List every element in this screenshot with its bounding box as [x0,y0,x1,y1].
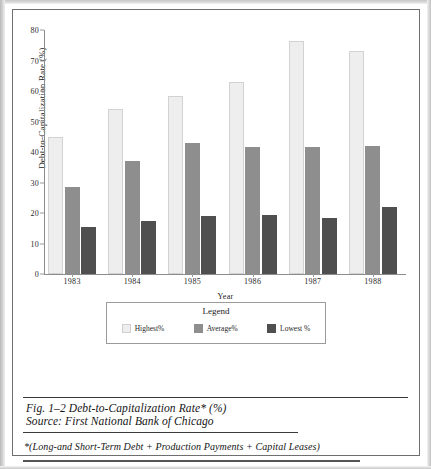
scanned-page: Debt-to-Capitalization Rate (%) 01020304… [0,0,431,469]
bar [108,109,123,274]
x-tick-mark [72,274,73,277]
bar-group [48,30,96,274]
bar-group [168,30,216,274]
bar [365,146,380,274]
bar-group [349,30,397,274]
caption-rule-middle [23,432,298,433]
bar [322,218,337,274]
legend-item-label: Average% [207,324,238,333]
bar [289,41,304,274]
bar [201,216,216,274]
caption-rule-top [23,397,408,398]
bar [81,227,96,274]
legend-item-label: Lowest % [280,324,310,333]
y-tick-label: 0 [35,270,39,279]
x-tick-label: 1984 [124,277,141,286]
bar [305,147,320,274]
legend: Legend Highest%Average%Lowest % [106,302,326,344]
legend-item: Average% [194,324,238,333]
bar [65,187,80,274]
bar [141,221,156,274]
bar-group [289,30,337,274]
x-tick-mark [253,274,254,277]
y-axis-tick-labels: 01020304050607080 [14,25,42,275]
y-tick-label: 50 [30,117,39,126]
x-tick-mark [132,274,133,277]
x-tick-label: 1983 [63,277,80,286]
scan-edge-left [0,0,5,469]
x-tick-label: 1987 [304,277,321,286]
y-tick-label: 80 [30,26,39,35]
legend-swatch-icon [194,324,203,333]
legend-item-label: Highest% [135,324,165,333]
legend-title: Legend [107,306,325,316]
scan-edge-top [0,0,431,4]
bar [382,207,397,274]
x-tick-mark [373,274,374,277]
x-tick-label: 1985 [184,277,201,286]
bar [168,96,183,274]
x-axis-tick-labels: 198319841985198619871988 [45,277,406,291]
figure-footnote: *(Long-and Short-Term Debt + Production … [24,441,320,452]
caption-rule-bottom [23,460,360,462]
scan-edge-right [427,0,431,469]
bar [229,82,244,274]
legend-swatch-icon [122,324,131,333]
x-axis-line [44,274,406,275]
legend-item: Lowest % [267,324,310,333]
plot-bars [45,30,406,274]
legend-items: Highest%Average%Lowest % [107,324,325,333]
y-tick-label: 70 [30,56,39,65]
bar [245,147,260,274]
y-tick-label: 60 [30,87,39,96]
bar [262,215,277,274]
legend-swatch-icon [267,324,276,333]
y-tick-label: 20 [30,209,39,218]
figure-caption-title: Fig. 1–2 Debt-to-Capitalization Rate* (%… [26,402,227,414]
bar [349,51,364,274]
y-tick-label: 10 [30,239,39,248]
x-tick-label: 1988 [364,277,381,286]
bar [125,161,140,274]
figure-caption-source: Source: First National Bank of Chicago [26,415,214,427]
bar [48,137,63,274]
bar-group [229,30,277,274]
legend-item: Highest% [122,324,165,333]
y-tick-label: 40 [30,148,39,157]
x-tick-label: 1986 [244,277,261,286]
bar-group [108,30,156,274]
bar [185,143,200,274]
x-tick-mark [192,274,193,277]
x-tick-mark [313,274,314,277]
y-tick-label: 30 [30,178,39,187]
x-axis-title: Year [45,292,406,301]
